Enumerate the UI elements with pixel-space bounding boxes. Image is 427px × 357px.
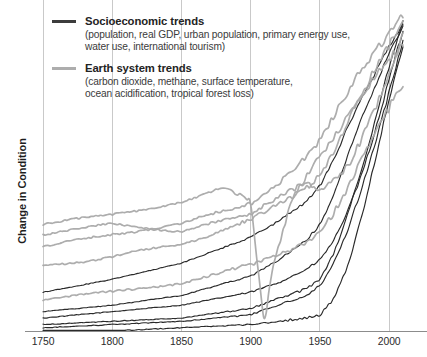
x-tick-label-1900: 1900 [239,336,262,347]
earth-system-line-swatch-icon [52,67,76,70]
legend-detail-earth-system-line2: ocean acidification, tropical forest los… [85,88,352,100]
legend-head-socioeconomic: Socioeconomic trends [52,16,352,27]
x-tick-label-2000: 2000 [378,336,401,347]
x-tick-label-1750: 1750 [32,336,55,347]
x-tick-label-1950: 1950 [309,336,332,347]
legend-detail-earth-system-line1: (carbon dioxide, methane, surface temper… [85,76,352,88]
legend-label-socioeconomic: Socioeconomic trends [85,16,204,27]
legend-entry-socioeconomic: Socioeconomic trends (population, real G… [52,16,352,54]
legend-detail-socioeconomic-line2: water use, international tourism) [85,41,352,53]
legend-label-earth-system: Earth system trends [85,63,192,74]
legend-entry-earth-system: Earth system trends (carbon dioxide, met… [52,63,352,101]
x-tick-label-1850: 1850 [170,336,193,347]
y-axis-label: Change in Condition [16,106,28,276]
legend-head-earth-system: Earth system trends [52,63,352,74]
great-acceleration-chart: Socioeconomic trends (population, real G… [0,0,427,357]
socioeconomic-line-swatch-icon [52,20,76,23]
x-tick-label-1800: 1800 [101,336,124,347]
legend-detail-socioeconomic-line1: (population, real GDP, urban population,… [85,29,352,41]
chart-legend: Socioeconomic trends (population, real G… [52,16,352,110]
